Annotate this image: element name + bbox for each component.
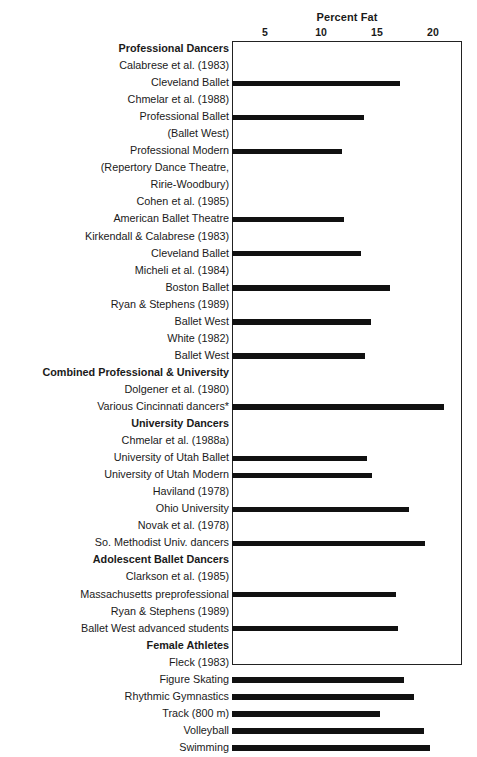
bar: [232, 115, 364, 120]
bar-row: University of Utah Ballet: [0, 450, 477, 467]
bar: [232, 456, 367, 461]
row-label: Micheli et al. (1984): [135, 264, 229, 277]
row-label: (Repertory Dance Theatre,: [101, 161, 229, 174]
group-header-row: Professional Dancers: [0, 41, 477, 58]
label-row: Novak et al. (1978): [0, 518, 477, 535]
bar-track: [232, 177, 462, 194]
bar: [232, 745, 430, 750]
bar-row: Rhythmic Gymnastics: [0, 689, 477, 706]
label-row: Chmelar et al. (1988a): [0, 433, 477, 450]
bar-track: [232, 467, 462, 484]
label-row: Cohen et al. (1985): [0, 194, 477, 211]
bar: [232, 541, 425, 546]
row-label: Professional Dancers: [119, 42, 229, 55]
bar-row: Ballet West: [0, 348, 477, 365]
label-row: Haviland (1978): [0, 484, 477, 501]
bar: [232, 353, 365, 358]
bar-track: [232, 672, 462, 689]
group-header-row: Combined Professional & University: [0, 365, 477, 382]
bar-track: [232, 501, 462, 518]
x-tick-label-10: 10: [315, 26, 327, 38]
label-row: Calabrese et al. (1983): [0, 58, 477, 75]
bar: [232, 507, 409, 512]
bar-track: [232, 365, 462, 382]
label-row: Dolgener et al. (1980): [0, 382, 477, 399]
bar-row: Ohio University: [0, 501, 477, 518]
row-label: Novak et al. (1978): [138, 519, 229, 532]
label-row: Clarkson et al. (1985): [0, 569, 477, 586]
axis-title: Percent Fat: [232, 11, 462, 23]
row-label: Chmelar et al. (1988a): [122, 434, 229, 447]
label-row: Micheli et al. (1984): [0, 263, 477, 280]
bar-track: [232, 518, 462, 535]
bar-track: [232, 638, 462, 655]
bar-row: So. Methodist Univ. dancers: [0, 535, 477, 552]
bar-track: [232, 552, 462, 569]
bar-track: [232, 723, 462, 740]
bar-track: [232, 331, 462, 348]
bar-track: [232, 297, 462, 314]
row-label: American Ballet Theatre: [113, 212, 229, 225]
label-row: Chmelar et al. (1988): [0, 92, 477, 109]
bar-track: [232, 41, 462, 58]
row-label: Swimming: [179, 741, 229, 754]
bar-track: [232, 399, 462, 416]
row-label: University Dancers: [131, 417, 229, 430]
bar: [232, 149, 342, 154]
bar-row: Ballet West: [0, 314, 477, 331]
bar-track: [232, 382, 462, 399]
row-label: Figure Skating: [159, 673, 229, 686]
bar: [232, 217, 344, 222]
row-label: University of Utah Ballet: [114, 451, 229, 464]
row-label: Massachusetts preprofessional: [80, 588, 229, 601]
bar-track: [232, 143, 462, 160]
bar-track: [232, 58, 462, 75]
row-label: Adolescent Ballet Dancers: [93, 553, 229, 566]
bar-row: Professional Ballet: [0, 109, 477, 126]
bar-row: American Ballet Theatre: [0, 211, 477, 228]
group-header-row: Adolescent Ballet Dancers: [0, 552, 477, 569]
row-label: Rhythmic Gymnastics: [125, 690, 229, 703]
label-row: (Ballet West): [0, 126, 477, 143]
bar-track: [232, 740, 462, 757]
bar: [232, 251, 361, 256]
label-row: Ririe-Woodbury): [0, 177, 477, 194]
bar-row: Cleveland Ballet: [0, 75, 477, 92]
row-label: Cleveland Ballet: [151, 247, 229, 260]
bar-row: Track (800 m): [0, 706, 477, 723]
bar-track: [232, 569, 462, 586]
bar-track: [232, 92, 462, 109]
row-label: Dolgener et al. (1980): [125, 383, 229, 396]
row-label: White (1982): [167, 332, 229, 345]
bar-row: Figure Skating: [0, 672, 477, 689]
row-label: Cohen et al. (1985): [137, 195, 229, 208]
x-tick-label-15: 15: [371, 26, 383, 38]
bar-row: Ballet West advanced students: [0, 621, 477, 638]
row-label: Professional Ballet: [140, 110, 229, 123]
chart-rows: Professional DancersCalabrese et al. (19…: [0, 41, 477, 757]
row-label: Volleyball: [183, 724, 229, 737]
bar-row: Various Cincinnati dancers*: [0, 399, 477, 416]
row-label: University of Utah Modern: [104, 468, 229, 481]
bar-track: [232, 450, 462, 467]
bar-track: [232, 484, 462, 501]
bar-track: [232, 348, 462, 365]
row-label: Boston Ballet: [165, 281, 229, 294]
bar: [232, 728, 424, 733]
x-axis-tick-labels: 5101520: [0, 26, 477, 40]
bar-row: Boston Ballet: [0, 280, 477, 297]
bar-row: Swimming: [0, 740, 477, 757]
bar: [232, 677, 404, 682]
bar-row: Massachusetts preprofessional: [0, 587, 477, 604]
label-row: Ryan & Stephens (1989): [0, 604, 477, 621]
bar-track: [232, 280, 462, 297]
bar-track: [232, 160, 462, 177]
row-label: Various Cincinnati dancers*: [97, 400, 229, 413]
bar-track: [232, 706, 462, 723]
row-label: Chmelar et al. (1988): [128, 93, 229, 106]
bar-track: [232, 535, 462, 552]
bar-row: Professional Modern: [0, 143, 477, 160]
bar-track: [232, 263, 462, 280]
label-row: White (1982): [0, 331, 477, 348]
